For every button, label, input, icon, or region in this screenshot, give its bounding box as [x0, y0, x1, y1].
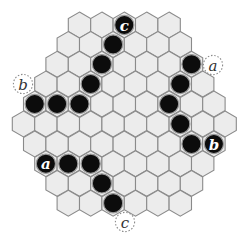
hex-cells	[12, 12, 236, 216]
black-stone-icon	[160, 94, 179, 113]
hex-board: cba abc	[0, 0, 251, 245]
black-stone-icon	[81, 74, 100, 93]
stone	[70, 94, 89, 113]
edge-marker-c: c	[115, 212, 134, 231]
marker-label: b	[18, 76, 28, 94]
black-stone-icon	[104, 194, 123, 213]
stone	[104, 35, 123, 54]
edge-marker-a: a	[203, 55, 222, 74]
marker-label: c	[121, 214, 130, 232]
black-stone-icon	[182, 134, 201, 153]
stone	[171, 114, 190, 133]
black-stone-icon	[70, 94, 89, 113]
black-stone-icon	[171, 114, 190, 133]
black-stone-icon	[104, 35, 123, 54]
stone	[48, 94, 67, 113]
black-stone-icon	[182, 55, 201, 74]
stone-a: a	[36, 154, 55, 173]
stone-c: c	[115, 15, 134, 34]
stone	[92, 55, 111, 74]
stone	[81, 154, 100, 173]
stone	[25, 94, 44, 113]
stone-label: c	[120, 17, 129, 35]
black-stone-icon	[92, 174, 111, 193]
stone	[171, 74, 190, 93]
black-stone-icon	[92, 55, 111, 74]
stone	[182, 55, 201, 74]
stone-label: a	[41, 155, 51, 173]
stone	[81, 74, 100, 93]
stone	[182, 134, 201, 153]
black-stone-icon	[171, 74, 190, 93]
stone	[160, 94, 179, 113]
black-stone-icon	[81, 154, 100, 173]
stone-b: b	[204, 134, 223, 153]
stone	[59, 154, 78, 173]
black-stone-icon	[25, 94, 44, 113]
hex-board-svg: cba abc	[0, 0, 251, 245]
stone	[104, 194, 123, 213]
black-stone-icon	[48, 94, 67, 113]
black-stone-icon	[59, 154, 78, 173]
stone	[92, 174, 111, 193]
stone-label: b	[209, 136, 220, 154]
marker-label: a	[209, 57, 218, 75]
edge-marker-b: b	[13, 74, 32, 93]
